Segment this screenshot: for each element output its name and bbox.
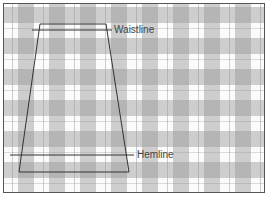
waistline-label: Waistline <box>114 25 154 35</box>
skirt-outline <box>19 24 129 172</box>
hemline-label: Hemline <box>137 150 174 160</box>
